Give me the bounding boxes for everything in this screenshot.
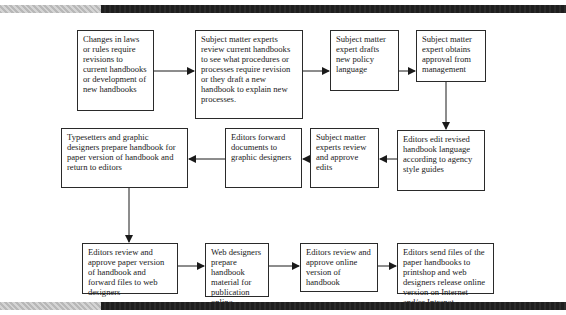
step-11-box: Editors review and approve online versio… bbox=[300, 243, 378, 292]
step-7-box: Editors forward documents to graphic des… bbox=[225, 128, 302, 188]
step-9-box: Editors review and approve paper version… bbox=[82, 243, 178, 294]
step-5-box: Editors edit revised handbook language a… bbox=[397, 130, 485, 191]
top-bar-light-segment bbox=[0, 5, 101, 13]
step-6-box: Subject matter experts review and approv… bbox=[310, 128, 379, 188]
step-12-box: Editors send files of the paper handbook… bbox=[397, 243, 494, 294]
step-8-box: Typesetters and graphic designers prepar… bbox=[61, 128, 188, 188]
top-decorative-bar bbox=[0, 5, 566, 13]
step-10-box: Web designers prepare handbook material … bbox=[205, 243, 269, 297]
bottom-bar-dark-segment bbox=[101, 302, 566, 310]
top-bar-dark-segment bbox=[101, 5, 566, 13]
step-4-box: Subject matter expert obtains approval f… bbox=[416, 30, 486, 82]
step-3-box: Subject matter expert drafts new policy … bbox=[330, 30, 399, 91]
step-2-box: Subject matter experts review current ha… bbox=[195, 30, 303, 119]
bottom-bar-light-segment bbox=[0, 302, 101, 310]
bottom-decorative-bar bbox=[0, 302, 566, 310]
step-1-box: Changes in laws or rules require revisio… bbox=[77, 30, 154, 111]
